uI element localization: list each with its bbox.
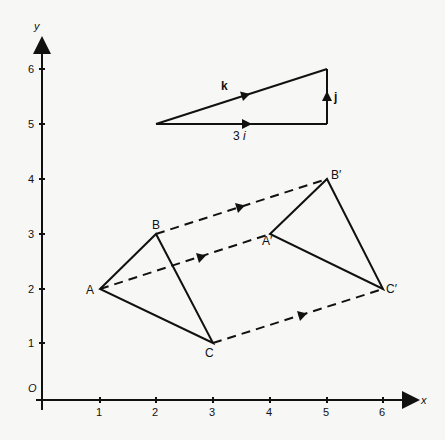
translation-vector-triangle: [156, 69, 327, 124]
path-C-to-C-prime: [213, 289, 383, 343]
vertex-label-A: A: [86, 283, 94, 297]
y-tick-label-2: 2: [28, 283, 34, 295]
vector-3i-coefficient: 3: [233, 129, 240, 143]
triangle-ABC: [100, 234, 213, 343]
triangle-A-prime-B-prime-C-prime: [270, 179, 383, 289]
vector-j-label: j: [333, 90, 337, 104]
x-axis-label: x: [420, 394, 427, 406]
y-tick-label-5: 5: [28, 118, 34, 130]
arrow-j-icon: [322, 91, 332, 101]
x-tick-label-4: 4: [266, 406, 272, 418]
vertex-label-A-prime: A′: [262, 234, 273, 248]
x-tick-label-3: 3: [209, 406, 215, 418]
y-axis-label: y: [33, 20, 41, 32]
x-tick-label-2: 2: [152, 406, 158, 418]
arrow-B-path-icon: [235, 203, 245, 213]
vertex-label-C: C: [205, 346, 214, 360]
vector-k-label: k: [221, 79, 228, 93]
x-tick-label-5: 5: [323, 406, 329, 418]
arrow-3i-icon: [242, 119, 252, 129]
vertex-label-C-prime: C′: [386, 282, 398, 296]
vector-3i-unit: i: [243, 129, 246, 143]
y-tick-label-6: 6: [28, 63, 34, 75]
vertex-label-B: B: [152, 218, 160, 232]
x-tick-label-6: 6: [379, 406, 385, 418]
y-axis: y: [33, 20, 51, 410]
y-axis-arrowhead-icon: [33, 36, 51, 54]
path-A-to-A-prime: [100, 234, 270, 289]
x-axis-arrowhead-icon: [402, 391, 420, 409]
vector-k: [156, 69, 327, 124]
y-tick-label-4: 4: [28, 173, 34, 185]
origin-label: O: [28, 382, 37, 394]
x-tick-label-1: 1: [96, 406, 102, 418]
y-tick-label-1: 1: [28, 337, 34, 349]
translation-diagram: y x O 1 2 3 4 5 6: [0, 0, 445, 440]
x-axis: x: [36, 391, 427, 409]
y-tick-label-3: 3: [28, 228, 34, 240]
arrow-C-path-icon: [297, 311, 307, 321]
vertex-label-B-prime: B′: [331, 168, 342, 182]
